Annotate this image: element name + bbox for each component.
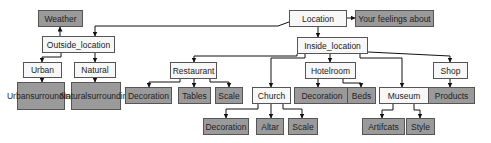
node-outside: Outside_location — [42, 36, 115, 53]
node-hotelroom: Hotelroom — [305, 62, 356, 79]
node-weather: Weather — [38, 10, 83, 27]
edge-museum-to-style — [414, 104, 420, 118]
edge-church-to-church_scale — [283, 104, 302, 118]
node-inside: Inside_location — [297, 37, 368, 54]
node-museum: Museum — [379, 87, 429, 104]
node-feelings: Your feelings about — [355, 10, 434, 27]
node-hotel-deco: Decoration — [294, 87, 350, 104]
node-style: Style — [406, 118, 435, 135]
node-location: Location — [289, 10, 347, 27]
edge-restaurant-to-rest_deco — [149, 79, 180, 87]
node-church-deco: Decoration — [203, 118, 249, 135]
node-natural-sur: Naturalsurrounding — [71, 82, 121, 110]
node-beds: Beds — [347, 87, 376, 104]
node-rest-scale: Scale — [215, 87, 243, 104]
edge-restaurant-to-rest_scale — [210, 79, 229, 87]
edge-inside-to-museum — [360, 54, 402, 87]
edge-church-to-church_deco — [226, 104, 258, 118]
location-concept-diagram: LocationYour feelings aboutWeatherOutsid… — [0, 0, 491, 143]
node-urban-sur: Urbansurrounding — [17, 82, 65, 110]
node-altar: Altar — [256, 118, 284, 135]
node-shop: Shop — [433, 62, 468, 79]
node-restaurant: Restaurant — [170, 62, 217, 79]
node-church: Church — [252, 87, 291, 104]
node-rest-deco: Decoration — [125, 87, 172, 104]
node-natural: Natural — [74, 62, 116, 78]
edge-hotelroom-to-beds — [343, 79, 361, 87]
edge-inside-to-shop — [368, 52, 450, 62]
edge-inside-to-church — [271, 54, 305, 87]
node-products: Products — [428, 87, 475, 104]
node-church-scale: Scale — [288, 118, 318, 135]
node-urban: Urban — [23, 62, 62, 78]
edge-museum-to-artifacts — [382, 104, 393, 118]
node-tables: Tables — [178, 87, 211, 104]
edge-outside-to-urban — [42, 53, 61, 62]
edge-location-to-outside — [95, 22, 289, 36]
node-artifacts: Artifcats — [362, 118, 405, 135]
